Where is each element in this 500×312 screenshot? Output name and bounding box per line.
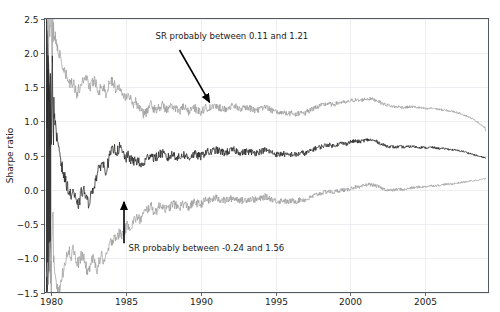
- y-tick-label-0: −1.5: [17, 289, 39, 299]
- y-tick-label-1: −1.0: [17, 254, 39, 264]
- y-tick-label-5: 1.0: [24, 117, 39, 127]
- y-tick-label-8: 2.5: [24, 15, 38, 25]
- x-tick-label-3: 1995: [265, 297, 288, 307]
- x-tick-label-0: 1980: [40, 297, 63, 307]
- y-tick-label-4: 0.5: [24, 152, 38, 162]
- y-tick-label-2: −0.5: [17, 220, 39, 230]
- x-tick-label-1: 1985: [115, 297, 138, 307]
- y-axis-title: Sharpe ratio: [5, 127, 15, 183]
- upper-annotation-label: SR probably between 0.11 and 1.21: [156, 31, 309, 41]
- x-tick-label-5: 2005: [414, 297, 437, 307]
- x-tick-label-4: 2000: [339, 297, 362, 307]
- y-tick-label-6: 1.5: [24, 83, 38, 93]
- y-tick-label-7: 2.0: [24, 49, 39, 59]
- x-tick-label-2: 1990: [190, 297, 213, 307]
- sharpe-ratio-chart: −1.5−1.0−0.50.00.51.01.52.02.51980198519…: [0, 0, 500, 312]
- lower-annotation-label: SR probably between -0.24 and 1.56: [129, 243, 285, 253]
- chart-figure: −1.5−1.0−0.50.00.51.01.52.02.51980198519…: [0, 0, 500, 312]
- y-tick-label-3: 0.0: [24, 186, 39, 196]
